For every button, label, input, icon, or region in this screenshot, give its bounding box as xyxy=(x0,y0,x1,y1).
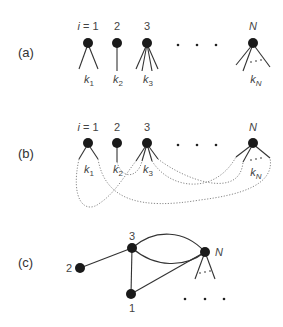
stub-ellipsis-dot xyxy=(255,60,257,62)
node-label-n: N xyxy=(249,20,257,32)
node-2 xyxy=(112,138,122,148)
node-label-2: 2 xyxy=(114,121,120,133)
node-label-1-text: = 1 xyxy=(80,20,99,32)
node-label-3: 3 xyxy=(144,121,150,133)
degree-label-3: k3 xyxy=(143,73,154,88)
degree-subscript: 2 xyxy=(119,79,124,88)
node-n xyxy=(248,138,258,148)
stub-ellipsis-dot xyxy=(260,59,262,61)
node-n xyxy=(248,38,258,48)
node-ellipsis xyxy=(177,44,218,47)
degree-subscript: 1 xyxy=(90,79,95,88)
node-3 xyxy=(142,138,152,148)
degree-label-n: kN xyxy=(250,73,262,88)
stub-ellipsis-dot xyxy=(255,158,257,160)
stub xyxy=(142,44,147,71)
degree-label-1: k1 xyxy=(84,73,95,88)
node-3 xyxy=(142,38,152,48)
node-ellipsis xyxy=(184,298,226,301)
stub-ellipsis-dot xyxy=(199,272,201,274)
node-label-1: i = 1 xyxy=(77,121,98,133)
stub-ellipsis-dot xyxy=(260,157,262,159)
panel-a: (a) i = 1 2 3 N xyxy=(18,20,270,88)
node-label-1-text: = 1 xyxy=(80,121,99,133)
stub xyxy=(136,44,147,69)
stub-ellipsis-dot xyxy=(250,159,252,161)
node-1 xyxy=(83,38,93,48)
stubs-node-n xyxy=(236,44,270,71)
ellipsis-dot xyxy=(196,144,199,147)
degree-subscript: 1 xyxy=(90,169,95,178)
ellipsis-dot xyxy=(223,298,226,301)
ellipsis-dot xyxy=(177,144,180,147)
panel-b-label: (b) xyxy=(18,146,34,161)
node-2 xyxy=(75,263,85,273)
ellipsis-dot xyxy=(184,298,187,301)
panel-b: (b) i = 1 2 3 N xyxy=(18,121,270,207)
stub xyxy=(147,44,158,69)
stub-ellipsis-dot xyxy=(250,61,252,63)
node-label-n: N xyxy=(249,121,257,133)
stubs-node-3 xyxy=(136,44,158,71)
ellipsis-dot xyxy=(196,44,199,47)
stub-pairings xyxy=(76,157,270,207)
node-label-2: 2 xyxy=(66,262,72,274)
stub xyxy=(147,44,152,71)
stub xyxy=(253,44,270,67)
stub xyxy=(243,44,253,71)
stub-ellipsis-dot xyxy=(204,271,206,273)
panel-c: (c) 3 2 1 N xyxy=(18,230,225,314)
node-2 xyxy=(112,38,122,48)
ellipsis-dot xyxy=(177,44,180,47)
edge-3-n-upper xyxy=(132,234,205,252)
degree-label-2: k2 xyxy=(113,163,124,178)
ellipsis-dot xyxy=(215,44,218,47)
panel-c-label: (c) xyxy=(18,255,33,270)
degree-label-3: k3 xyxy=(143,163,154,178)
node-1 xyxy=(83,138,93,148)
pairing-edge xyxy=(98,158,270,204)
node-1 xyxy=(126,289,136,299)
node-label-1: i = 1 xyxy=(77,20,98,32)
pairing-edge xyxy=(158,159,243,183)
node-label-3: 3 xyxy=(144,20,150,32)
node-label-3: 3 xyxy=(129,230,135,242)
ellipsis-dot xyxy=(204,298,207,301)
edge-3-n-lower xyxy=(132,248,205,264)
pairing-edge xyxy=(152,157,236,184)
node-label-2: 2 xyxy=(114,20,120,32)
degree-subscript: 3 xyxy=(149,169,154,178)
node-label-n: N xyxy=(215,246,223,258)
degree-subscript: N xyxy=(256,79,262,88)
configuration-model-diagram: (a) i = 1 2 3 N xyxy=(0,0,283,327)
node-3 xyxy=(127,243,137,253)
node-label-1: 1 xyxy=(129,302,135,314)
node-ellipsis xyxy=(177,144,218,147)
degree-label-n: kN xyxy=(250,166,262,181)
degree-label-1: k1 xyxy=(84,163,95,178)
degree-subscript: N xyxy=(256,172,262,181)
stub-ellipsis-dot xyxy=(209,270,211,272)
degree-label-2: k2 xyxy=(113,73,124,88)
degree-subscript: 3 xyxy=(149,79,154,88)
node-n xyxy=(200,247,210,257)
edge-2-3 xyxy=(80,248,132,268)
ellipsis-dot xyxy=(215,144,218,147)
panel-a-label: (a) xyxy=(18,45,34,60)
degree-subscript: 2 xyxy=(119,169,124,178)
edge-3-1 xyxy=(131,248,132,294)
